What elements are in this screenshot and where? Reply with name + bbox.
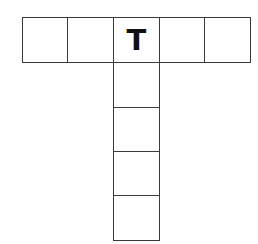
grid-cell-across-2[interactable] — [67, 17, 114, 63]
grid-cell-across-5[interactable] — [204, 17, 251, 63]
grid-cell-down-5[interactable] — [113, 195, 160, 241]
grid-cell-down-3[interactable] — [113, 107, 160, 152]
grid-cell-down-2[interactable] — [113, 62, 160, 108]
grid-cell-across-1[interactable] — [22, 17, 69, 63]
grid-cell-across-4[interactable] — [159, 17, 205, 63]
grid-cell-across-3-shared[interactable]: T — [113, 17, 160, 63]
grid-cell-down-4[interactable] — [113, 151, 160, 196]
